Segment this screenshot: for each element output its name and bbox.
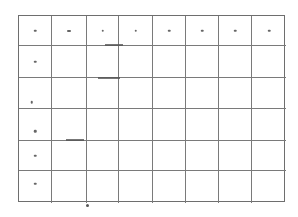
cell-r0-c0: • bbox=[19, 16, 52, 46]
cell-r3-c1 bbox=[52, 109, 87, 141]
cell-mark: • bbox=[67, 30, 71, 32]
cell-r4-c0: • bbox=[19, 141, 52, 171]
cell-r4-c2 bbox=[87, 141, 119, 171]
cell-mark: • bbox=[234, 29, 237, 32]
cell-r2-c0: • bbox=[19, 78, 52, 109]
cell-r5-c4 bbox=[153, 171, 186, 203]
cell-r3-c5 bbox=[186, 109, 219, 141]
cell-r1-c5 bbox=[186, 46, 219, 78]
cell-r3-c7 bbox=[252, 109, 286, 141]
cell-mark: • bbox=[268, 29, 271, 32]
cell-mark: • bbox=[34, 29, 37, 32]
cell-r1-c7 bbox=[252, 46, 286, 78]
cell-r0-c4: • bbox=[153, 16, 186, 46]
cell-r5-c3 bbox=[119, 171, 153, 203]
cell-mark: • bbox=[34, 154, 37, 157]
cell-r3-c4 bbox=[153, 109, 186, 141]
cell-r2-c4 bbox=[153, 78, 186, 109]
cell-r1-c1 bbox=[52, 46, 87, 78]
cell-mark: • bbox=[34, 183, 37, 186]
cell-r2-c1 bbox=[52, 78, 87, 109]
cell-r3-c6 bbox=[219, 109, 252, 141]
cell-r3-c0: • bbox=[19, 109, 52, 141]
cell-mark: • bbox=[34, 130, 37, 133]
cell-mark: • bbox=[201, 29, 204, 32]
cell-r2-c3 bbox=[119, 78, 153, 109]
pen-stroke-artifact bbox=[98, 77, 120, 79]
cell-r4-c4 bbox=[153, 141, 186, 171]
cell-r1-c0: • bbox=[19, 46, 52, 78]
cell-r4-c3 bbox=[119, 141, 153, 171]
cell-r4-c7 bbox=[252, 141, 286, 171]
cell-r4-c5 bbox=[186, 141, 219, 171]
cell-mark: • bbox=[101, 29, 104, 32]
cell-r5-c7 bbox=[252, 171, 286, 203]
cell-r2-c5 bbox=[186, 78, 219, 109]
pen-stroke-artifact bbox=[105, 44, 123, 46]
cell-mark: • bbox=[168, 29, 171, 32]
cell-mark: • bbox=[34, 60, 37, 63]
cell-r0-c2: • bbox=[87, 16, 119, 46]
cell-r4-c1 bbox=[52, 141, 87, 171]
cell-r1-c4 bbox=[153, 46, 186, 78]
cell-r5-c6 bbox=[219, 171, 252, 203]
cell-r0-c7: • bbox=[252, 16, 286, 46]
cell-r1-c3 bbox=[119, 46, 153, 78]
hand-drawn-grid: • • • • • • • • • • • • • bbox=[18, 15, 285, 202]
cell-r5-c1 bbox=[52, 171, 87, 203]
cell-r0-c3: • bbox=[119, 16, 153, 46]
cell-r0-c5: • bbox=[186, 16, 219, 46]
cell-r3-c2 bbox=[87, 109, 119, 141]
cell-r0-c1: • bbox=[52, 16, 87, 46]
cell-r3-c3 bbox=[119, 109, 153, 141]
cell-r0-c6: • bbox=[219, 16, 252, 46]
ink-speck bbox=[86, 204, 89, 207]
cell-r1-c2 bbox=[87, 46, 119, 78]
cell-r5-c2 bbox=[87, 171, 119, 203]
cell-r5-c5 bbox=[186, 171, 219, 203]
cell-r1-c6 bbox=[219, 46, 252, 78]
cell-mark: • bbox=[134, 29, 137, 32]
cell-r2-c6 bbox=[219, 78, 252, 109]
cell-r5-c0: • bbox=[19, 171, 52, 203]
cell-r2-c7 bbox=[252, 78, 286, 109]
cell-r4-c6 bbox=[219, 141, 252, 171]
cell-mark: • bbox=[31, 101, 34, 104]
pen-stroke-artifact bbox=[66, 139, 84, 141]
cell-r2-c2 bbox=[87, 78, 119, 109]
